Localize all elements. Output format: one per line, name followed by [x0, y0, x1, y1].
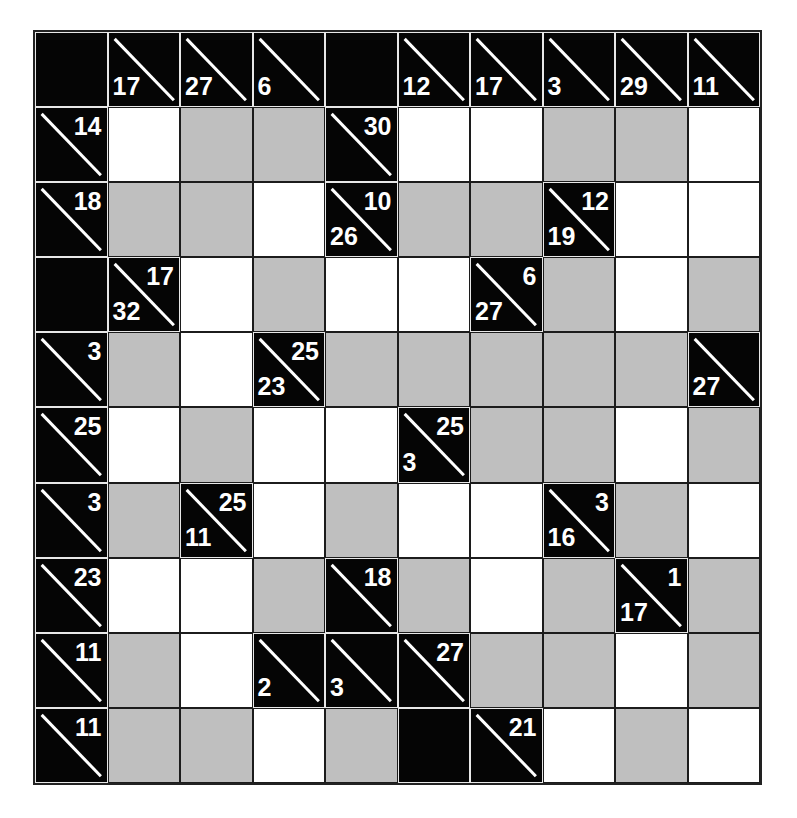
clue-cell: 627: [470, 257, 543, 332]
entry-cell[interactable]: [108, 708, 181, 783]
blocked-cell: [398, 708, 471, 783]
entry-cell[interactable]: [108, 407, 181, 482]
across-clue-sum: 18: [364, 565, 392, 590]
entry-cell[interactable]: [688, 407, 761, 482]
entry-cell[interactable]: [325, 483, 398, 558]
clue-cell: 18: [35, 182, 108, 257]
entry-cell[interactable]: [615, 257, 688, 332]
entry-cell[interactable]: [615, 483, 688, 558]
entry-cell[interactable]: [688, 107, 761, 182]
clue-cell: 14: [35, 107, 108, 182]
clue-cell: 3: [325, 633, 398, 708]
entry-cell[interactable]: [615, 407, 688, 482]
entry-cell[interactable]: [543, 407, 616, 482]
down-clue-sum: 3: [548, 74, 562, 99]
clue-cell: 21: [470, 708, 543, 783]
entry-cell[interactable]: [180, 182, 253, 257]
entry-cell[interactable]: [398, 332, 471, 407]
entry-cell[interactable]: [543, 332, 616, 407]
entry-cell[interactable]: [108, 633, 181, 708]
entry-cell[interactable]: [180, 633, 253, 708]
entry-cell[interactable]: [615, 708, 688, 783]
entry-cell[interactable]: [253, 407, 326, 482]
entry-cell[interactable]: [543, 708, 616, 783]
across-clue-sum: 3: [88, 339, 102, 364]
entry-cell[interactable]: [325, 332, 398, 407]
entry-cell[interactable]: [253, 182, 326, 257]
down-clue-sum: 23: [258, 374, 286, 399]
entry-cell[interactable]: [253, 257, 326, 332]
entry-cell[interactable]: [688, 483, 761, 558]
entry-cell[interactable]: [108, 332, 181, 407]
entry-cell[interactable]: [398, 558, 471, 633]
down-clue-sum: 17: [475, 74, 503, 99]
clue-cell: 18: [325, 558, 398, 633]
entry-cell[interactable]: [398, 107, 471, 182]
entry-cell[interactable]: [688, 633, 761, 708]
entry-cell[interactable]: [615, 633, 688, 708]
entry-cell[interactable]: [688, 257, 761, 332]
clue-cell: 11: [35, 708, 108, 783]
clue-cell: 17: [470, 32, 543, 107]
clue-cell: 316: [543, 483, 616, 558]
entry-cell[interactable]: [108, 107, 181, 182]
across-clue-sum: 10: [364, 189, 392, 214]
entry-cell[interactable]: [108, 182, 181, 257]
across-clue-sum: 21: [509, 715, 537, 740]
entry-cell[interactable]: [470, 332, 543, 407]
entry-cell[interactable]: [615, 107, 688, 182]
entry-cell[interactable]: [688, 558, 761, 633]
clue-cell: 11: [35, 633, 108, 708]
clue-cell: 3: [35, 483, 108, 558]
entry-cell[interactable]: [398, 182, 471, 257]
entry-cell[interactable]: [470, 558, 543, 633]
across-clue-sum: 18: [74, 189, 102, 214]
clue-cell: 3: [543, 32, 616, 107]
entry-cell[interactable]: [470, 407, 543, 482]
across-clue-sum: 25: [74, 414, 102, 439]
entry-cell[interactable]: [615, 332, 688, 407]
entry-cell[interactable]: [688, 708, 761, 783]
down-clue-sum: 27: [693, 374, 721, 399]
entry-cell[interactable]: [470, 182, 543, 257]
clue-cell: 2: [253, 633, 326, 708]
entry-cell[interactable]: [470, 107, 543, 182]
across-clue-sum: 25: [436, 414, 464, 439]
entry-cell[interactable]: [180, 332, 253, 407]
entry-cell[interactable]: [543, 633, 616, 708]
entry-cell[interactable]: [398, 257, 471, 332]
entry-cell[interactable]: [180, 558, 253, 633]
across-clue-sum: 3: [88, 490, 102, 515]
entry-cell[interactable]: [108, 483, 181, 558]
entry-cell[interactable]: [470, 483, 543, 558]
clue-cell: 11: [688, 32, 761, 107]
entry-cell[interactable]: [615, 182, 688, 257]
clue-cell: 1026: [325, 182, 398, 257]
entry-cell[interactable]: [325, 708, 398, 783]
blocked-cell: [35, 32, 108, 107]
entry-cell[interactable]: [325, 257, 398, 332]
entry-cell[interactable]: [180, 708, 253, 783]
entry-cell[interactable]: [253, 483, 326, 558]
clue-cell: 117: [615, 558, 688, 633]
entry-cell[interactable]: [253, 708, 326, 783]
across-clue-sum: 23: [74, 565, 102, 590]
entry-cell[interactable]: [543, 558, 616, 633]
across-clue-sum: 12: [581, 189, 609, 214]
entry-cell[interactable]: [253, 558, 326, 633]
entry-cell[interactable]: [325, 407, 398, 482]
entry-cell[interactable]: [180, 257, 253, 332]
entry-cell[interactable]: [180, 407, 253, 482]
entry-cell[interactable]: [108, 558, 181, 633]
entry-cell[interactable]: [543, 257, 616, 332]
down-clue-sum: 26: [330, 224, 358, 249]
entry-cell[interactable]: [180, 107, 253, 182]
across-clue-sum: 1: [668, 565, 682, 590]
entry-cell[interactable]: [543, 107, 616, 182]
entry-cell[interactable]: [688, 182, 761, 257]
entry-cell[interactable]: [398, 483, 471, 558]
entry-cell[interactable]: [470, 633, 543, 708]
entry-cell[interactable]: [253, 107, 326, 182]
down-clue-sum: 19: [548, 224, 576, 249]
down-clue-sum: 29: [620, 74, 648, 99]
